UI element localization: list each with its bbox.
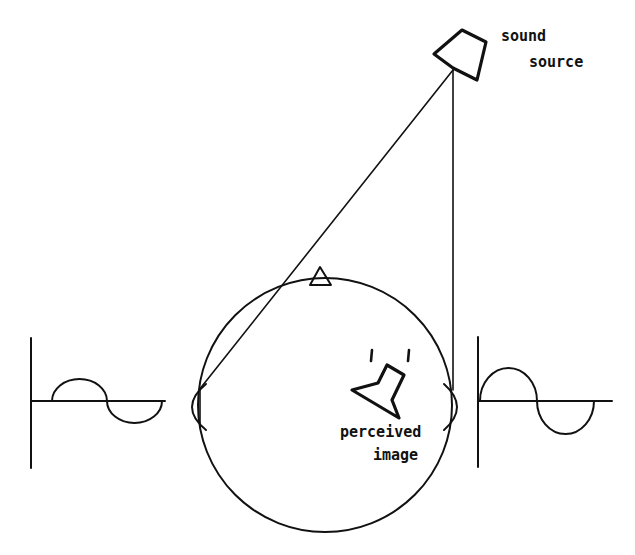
perceived-image-label-line2: image [373,447,418,464]
sound-localization-diagram [0,0,635,555]
right-ear [444,384,457,430]
right-ear-waveform [478,337,612,467]
perceived-tick-right [408,350,409,361]
perceived-tick-left [371,350,372,361]
path-to-left-ear [199,70,453,390]
perceived-image-label-line1: perceived [340,424,421,441]
speaker-icon-perceived-image [352,365,404,418]
head-circle [198,278,452,532]
sound-source-label-line1: sound [501,28,546,45]
sound-source-label-line2: source [529,54,583,71]
nose-triangle [310,267,331,285]
left-ear-waveform [31,338,165,468]
speaker-icon-sound-source [434,30,486,80]
